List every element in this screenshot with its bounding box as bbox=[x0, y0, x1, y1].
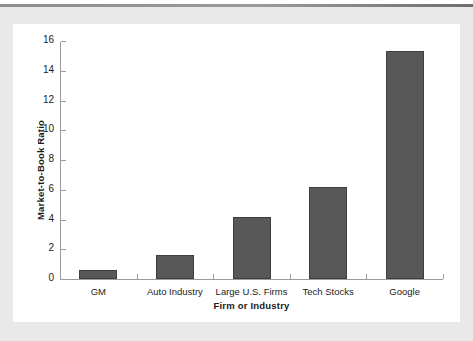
y-axis-label: Market-to-Book Ratio bbox=[35, 100, 49, 240]
y-tick-mark bbox=[61, 279, 66, 280]
y-tick: 16 bbox=[60, 41, 66, 42]
y-tick-mark bbox=[61, 190, 66, 191]
y-tick: 4 bbox=[60, 220, 66, 221]
y-tick: 8 bbox=[60, 160, 66, 161]
y-tick-label: 14 bbox=[43, 64, 54, 75]
y-tick-label: 12 bbox=[43, 94, 54, 105]
y-tick-label: 2 bbox=[48, 242, 54, 253]
y-tick-mark bbox=[61, 41, 66, 42]
y-tick-label: 10 bbox=[43, 123, 54, 134]
bar bbox=[309, 187, 347, 279]
y-tick: 6 bbox=[60, 190, 66, 191]
y-tick-label: 8 bbox=[48, 153, 54, 164]
x-category-label: Auto Industry bbox=[147, 286, 203, 297]
bar bbox=[386, 51, 424, 279]
y-tick-label: 4 bbox=[48, 213, 54, 224]
x-category-label: Google bbox=[389, 286, 420, 297]
x-tick-mark bbox=[366, 274, 367, 279]
x-axis-label: Firm or Industry bbox=[60, 300, 443, 311]
bar bbox=[156, 255, 194, 279]
figure-panel: Market-to-Book Ratio 0246810121416GMAuto… bbox=[13, 24, 460, 322]
y-tick: 10 bbox=[60, 130, 66, 131]
x-category-label: Large U.S. Firms bbox=[216, 286, 288, 297]
y-tick: 2 bbox=[60, 249, 66, 250]
y-tick-mark bbox=[61, 130, 66, 131]
x-tick-mark bbox=[213, 274, 214, 279]
y-tick: 0 bbox=[60, 279, 66, 280]
y-tick: 14 bbox=[60, 71, 66, 72]
y-tick-mark bbox=[61, 249, 66, 250]
y-tick: 12 bbox=[60, 101, 66, 102]
x-tick-mark bbox=[290, 274, 291, 279]
y-tick-mark bbox=[61, 101, 66, 102]
bar bbox=[79, 270, 117, 279]
y-tick-label: 16 bbox=[43, 34, 54, 45]
y-tick-label: 0 bbox=[48, 272, 54, 283]
y-axis-line bbox=[60, 42, 61, 280]
x-axis-line bbox=[60, 279, 443, 280]
y-tick-label: 6 bbox=[48, 183, 54, 194]
x-tick-mark bbox=[137, 274, 138, 279]
y-axis-label-wrap: Market-to-Book Ratio bbox=[21, 24, 39, 284]
plot-area: 0246810121416GMAuto IndustryLarge U.S. F… bbox=[60, 42, 443, 280]
x-tick-mark bbox=[443, 274, 444, 279]
bar-chart: Market-to-Book Ratio 0246810121416GMAuto… bbox=[13, 24, 460, 322]
y-tick-mark bbox=[61, 71, 66, 72]
y-tick-mark bbox=[61, 220, 66, 221]
bar bbox=[233, 217, 271, 279]
x-category-label: GM bbox=[91, 286, 106, 297]
x-tick-mark bbox=[60, 274, 61, 279]
figure-page: Market-to-Book Ratio 0246810121416GMAuto… bbox=[0, 0, 473, 341]
y-tick-mark bbox=[61, 160, 66, 161]
x-category-label: Tech Stocks bbox=[302, 286, 353, 297]
